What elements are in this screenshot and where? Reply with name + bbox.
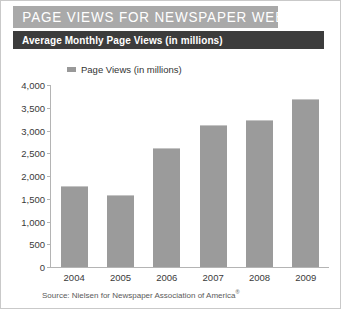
plot-wrapper: 200420052006200720082009 05001,0001,5002… [1, 1, 341, 309]
plot-area: 200420052006200720082009 05001,0001,5002… [50, 85, 329, 268]
bar-slot: 2004 [51, 85, 97, 267]
registered-mark-icon: ® [235, 289, 239, 295]
x-axis-label: 2009 [295, 272, 316, 283]
y-axis-tick [47, 131, 51, 132]
x-axis-label: 2008 [249, 272, 270, 283]
x-axis-label: 2004 [64, 272, 85, 283]
y-axis-label: 3,000 [21, 125, 45, 136]
y-axis-label: 1,500 [21, 193, 45, 204]
bar-slot: 2006 [144, 85, 190, 267]
x-axis-label: 2007 [203, 272, 224, 283]
y-axis-label: 1,000 [21, 216, 45, 227]
bar[interactable] [200, 125, 227, 267]
chart-figure: PAGE VIEWS FOR NEWSPAPER WEBSITES Averag… [0, 0, 341, 309]
y-axis-tick [47, 85, 51, 86]
bar-slot: 2008 [236, 85, 282, 267]
y-axis-label: 500 [29, 239, 45, 250]
bar[interactable] [292, 99, 319, 267]
y-axis-label: 2,000 [21, 171, 45, 182]
y-axis-label: 0 [40, 262, 45, 273]
source-note: Source: Nielsen for Newspaper Associatio… [42, 289, 240, 300]
y-axis-label: 4,000 [21, 80, 45, 91]
bar[interactable] [246, 120, 273, 267]
bar[interactable] [153, 148, 180, 267]
bar-slot: 2005 [97, 85, 143, 267]
bar-slot: 2007 [190, 85, 236, 267]
y-axis-tick [47, 108, 51, 109]
y-axis-tick [47, 176, 51, 177]
y-axis-tick [47, 153, 51, 154]
source-text: Source: Nielsen for Newspaper Associatio… [42, 291, 235, 300]
bar-series: 200420052006200720082009 [51, 85, 329, 267]
bar-slot: 2009 [283, 85, 329, 267]
y-axis-tick [47, 244, 51, 245]
x-axis-label: 2006 [156, 272, 177, 283]
bar[interactable] [61, 186, 88, 267]
y-axis-tick [47, 199, 51, 200]
y-axis-tick [47, 267, 51, 268]
y-axis-label: 3,500 [21, 102, 45, 113]
x-axis-label: 2005 [110, 272, 131, 283]
y-axis-label: 2,500 [21, 148, 45, 159]
bar[interactable] [107, 195, 134, 267]
y-axis-tick [47, 222, 51, 223]
